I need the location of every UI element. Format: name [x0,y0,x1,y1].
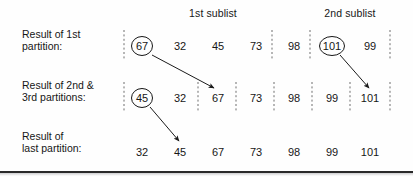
cell-row-first-partition-col5: 98 [288,41,300,52]
arrow-67-moves [152,55,214,88]
arrow-45-moves [150,107,179,141]
cell-row-last-partition-col5: 98 [288,147,300,158]
pivot-circles [132,37,345,108]
cell-row-last-partition-col2: 45 [174,147,186,158]
cell-row-last-partition-col3: 67 [212,147,224,158]
cell-row-last-partition-col6: 99 [326,147,338,158]
cell-row-second-third-partitions-col2: 32 [174,93,186,104]
row-label-line2: 3rd partitions: [22,91,94,103]
row-label-row-first-partition: Result of 1stpartition: [22,28,80,53]
cell-row-last-partition-col7: 101 [361,147,379,158]
sublist-header-1: 1st sublist [189,7,237,19]
cell-row-first-partition-col4: 73 [250,41,262,52]
sublist-header-2: 2nd sublist [324,7,375,19]
row-label-line1: Result of 1st [22,28,80,40]
row-label-line2: last partition: [22,142,82,154]
cell-row-first-partition-col6: 101 [323,41,341,52]
row-label-row-last-partition: Result oflast partition: [22,130,82,155]
cell-row-second-third-partitions-col1: 45 [136,93,148,104]
row-label-line1: Result of 2nd & [22,79,94,91]
cell-row-first-partition-col3: 45 [212,41,224,52]
cell-row-first-partition-col1: 67 [136,41,148,52]
arrow-101-moves [340,55,369,88]
cell-row-second-third-partitions-col4: 73 [250,93,262,104]
bottom-rule-shadow [0,173,413,176]
row-label-row-second-third-partitions: Result of 2nd &3rd partitions: [22,79,94,104]
cell-row-second-third-partitions-col6: 99 [326,93,338,104]
cell-row-first-partition-col2: 32 [174,41,186,52]
row-label-line1: Result of [22,130,82,142]
cell-row-second-third-partitions-col3: 67 [212,93,224,104]
cell-row-last-partition-col1: 32 [136,147,148,158]
quicksort-partition-figure: 1st sublist2nd sublist Result of 1stpart… [0,0,413,177]
cell-row-first-partition-col7: 99 [364,41,376,52]
row-label-line2: partition: [22,40,80,52]
cell-row-second-third-partitions-col7: 101 [361,93,379,104]
cell-row-last-partition-col4: 73 [250,147,262,158]
cell-row-second-third-partitions-col5: 98 [288,93,300,104]
